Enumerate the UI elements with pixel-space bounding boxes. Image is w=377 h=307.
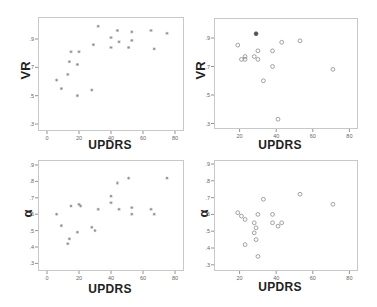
svg-text:60: 60 (310, 275, 316, 281)
data-point (254, 226, 258, 230)
data-point (271, 221, 275, 225)
svg-text:.5: .5 (205, 228, 210, 234)
data-point (261, 197, 265, 201)
svg-text:.9: .9 (205, 161, 210, 167)
data-point (331, 202, 335, 206)
data-point (276, 224, 280, 228)
data-point (271, 213, 275, 217)
svg-text:.3: .3 (205, 262, 210, 268)
data-point (298, 192, 302, 196)
svg-text:.7: .7 (205, 195, 210, 201)
svg-text:80: 80 (346, 275, 352, 281)
data-point (236, 211, 240, 215)
data-point (243, 243, 247, 247)
data-point (280, 221, 284, 225)
data-point (240, 214, 244, 218)
data-point (243, 218, 247, 222)
data-point (252, 221, 256, 225)
scatter-plot-br: .3.4.5.6.7.8.920406080 (0, 0, 377, 307)
data-point (256, 255, 260, 259)
svg-text:20: 20 (237, 275, 243, 281)
data-point (254, 238, 258, 242)
data-point (256, 213, 260, 217)
svg-text:40: 40 (273, 275, 279, 281)
data-point (252, 231, 256, 235)
svg-text:.8: .8 (205, 178, 210, 184)
svg-text:.4: .4 (205, 245, 210, 251)
svg-text:.6: .6 (205, 211, 210, 217)
